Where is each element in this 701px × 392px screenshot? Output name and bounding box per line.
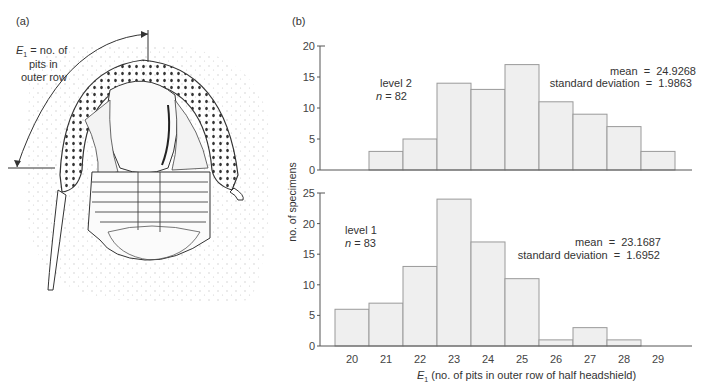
svg-text:15: 15	[303, 71, 315, 83]
histogram-bar	[335, 309, 369, 346]
svg-text:23: 23	[448, 353, 460, 365]
histogram-bar	[437, 199, 471, 346]
svg-text:0: 0	[309, 340, 315, 352]
svg-text:15: 15	[303, 248, 315, 260]
svg-text:25: 25	[516, 353, 528, 365]
svg-text:29: 29	[652, 353, 664, 365]
svg-text:24: 24	[482, 353, 494, 365]
level1-mean: mean = 23.1687	[575, 236, 661, 248]
histogram-bar	[369, 303, 403, 346]
level2-sd: standard deviation = 1.9863	[550, 77, 692, 89]
svg-text:28: 28	[618, 353, 630, 365]
histogram-bar	[505, 279, 539, 346]
histogram-bar	[573, 114, 607, 170]
level2-n: n = 82	[376, 90, 407, 102]
level1-sd: standard deviation = 1.6952	[518, 249, 660, 261]
svg-text:22: 22	[414, 353, 426, 365]
svg-text:20: 20	[303, 40, 315, 52]
svg-text:10: 10	[303, 279, 315, 291]
histogram-bar	[573, 328, 607, 346]
svg-text:27: 27	[584, 353, 596, 365]
histogram-bar	[369, 151, 403, 170]
histogram-bar	[471, 242, 505, 346]
histogram-bar	[641, 151, 675, 170]
svg-text:26: 26	[550, 353, 562, 365]
histogram-charts: 05101520051015202520212223242526272829	[0, 0, 701, 392]
histogram-bar	[437, 83, 471, 170]
svg-text:5: 5	[309, 133, 315, 145]
x-axis-label: E1 (no. of pits in outer row of half hea…	[417, 369, 636, 383]
level1-title: level 1	[345, 224, 377, 236]
svg-text:21: 21	[380, 353, 392, 365]
svg-text:20: 20	[346, 353, 358, 365]
histogram-bar	[539, 340, 573, 346]
histogram-bar	[539, 102, 573, 170]
level1-n: n = 83	[345, 237, 376, 249]
histogram-bar	[403, 266, 437, 346]
level2-title: level 2	[380, 77, 412, 89]
svg-text:10: 10	[303, 102, 315, 114]
level2-mean: mean = 24.9268	[610, 65, 696, 77]
y-axis-label: no. of specimens	[286, 152, 298, 252]
svg-text:25: 25	[303, 187, 315, 199]
histogram-bar	[607, 127, 641, 170]
histogram-bar	[471, 89, 505, 170]
svg-text:5: 5	[309, 309, 315, 321]
svg-text:20: 20	[303, 218, 315, 230]
histogram-bar	[607, 340, 641, 346]
histogram-bar	[505, 65, 539, 170]
svg-text:0: 0	[309, 164, 315, 176]
histogram-bar	[403, 139, 437, 170]
